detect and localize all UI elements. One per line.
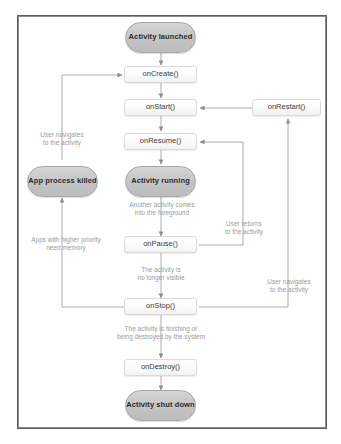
annotation-no-longer-visible: The activity is no longer visible — [113, 266, 209, 282]
callback-on-pause-label: onPause() — [143, 240, 178, 248]
state-app-process-killed[interactable]: App process killed — [27, 166, 98, 197]
state-activity-launched[interactable]: Activity launched — [125, 22, 196, 53]
state-app-process-killed-label: App process killed — [28, 177, 97, 185]
callback-on-resume-label: onResume() — [140, 137, 181, 145]
callback-on-pause[interactable]: onPause() — [124, 236, 197, 253]
callback-on-resume[interactable]: onResume() — [124, 133, 197, 150]
callback-on-stop[interactable]: onStop() — [124, 298, 197, 315]
state-activity-launched-label: Activity launched — [129, 33, 193, 41]
state-activity-running[interactable]: Activity running — [125, 166, 196, 197]
annotation-another-activity-foreground: Another activity comes into the foregrou… — [106, 201, 218, 217]
callback-on-create-label: onCreate() — [143, 70, 179, 78]
annotation-apps-higher-priority: Apps with higher priority need memory — [11, 236, 121, 252]
callback-on-restart[interactable]: onRestart() — [252, 99, 321, 116]
callback-on-destroy[interactable]: onDestroy() — [124, 359, 197, 376]
callback-on-create[interactable]: onCreate() — [124, 66, 197, 83]
annotation-user-navigates-right: User navigates to the activity — [257, 278, 321, 294]
annotation-finishing-or-destroyed: The activity is finishing or being destr… — [92, 325, 230, 341]
callback-on-destroy-label: onDestroy() — [141, 363, 180, 371]
callback-on-restart-label: onRestart() — [268, 103, 306, 111]
state-activity-shut-down-label: Activity shut down — [126, 401, 194, 409]
annotation-user-returns: User returns to the activity — [213, 220, 275, 236]
state-activity-running-label: Activity running — [131, 177, 190, 185]
state-activity-shut-down[interactable]: Activity shut down — [125, 390, 196, 421]
callback-on-start[interactable]: onStart() — [124, 99, 197, 116]
activity-lifecycle-diagram: Activity launched App process killed Act… — [0, 0, 341, 444]
annotation-user-navigates-left: User navigates to the activity — [22, 131, 102, 147]
callback-on-stop-label: onStop() — [146, 302, 175, 310]
callback-on-start-label: onStart() — [146, 103, 175, 111]
